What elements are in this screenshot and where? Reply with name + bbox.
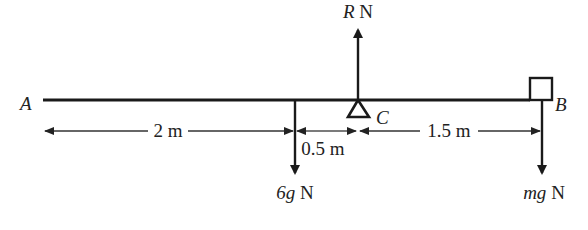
beam-weight-unit: N xyxy=(300,182,314,203)
reaction-unit: N xyxy=(359,1,373,22)
particle-weight-symbol: mg xyxy=(523,182,546,203)
dimension-label-2m: 2 m xyxy=(153,120,182,141)
particle-weight-unit: N xyxy=(551,182,565,203)
particle-weight-label: mg N xyxy=(523,182,565,203)
dimension-label-0-5m: 0.5 m xyxy=(301,138,345,159)
point-label-b: B xyxy=(555,94,567,115)
point-label-c: C xyxy=(376,107,389,128)
beam-diagram: A B C R N 6g N mg N 2 m 0.5 m 1.5 m xyxy=(0,0,588,230)
reaction-force-label: R N xyxy=(342,1,373,22)
pivot-support-icon xyxy=(348,100,369,117)
dimension-label-1-5m: 1.5 m xyxy=(427,120,471,141)
beam-weight-symbol: 6g xyxy=(276,182,295,203)
particle-block xyxy=(530,78,552,100)
beam-weight-label: 6g N xyxy=(276,182,314,203)
reaction-symbol: R xyxy=(342,1,355,22)
point-label-a: A xyxy=(18,93,32,114)
